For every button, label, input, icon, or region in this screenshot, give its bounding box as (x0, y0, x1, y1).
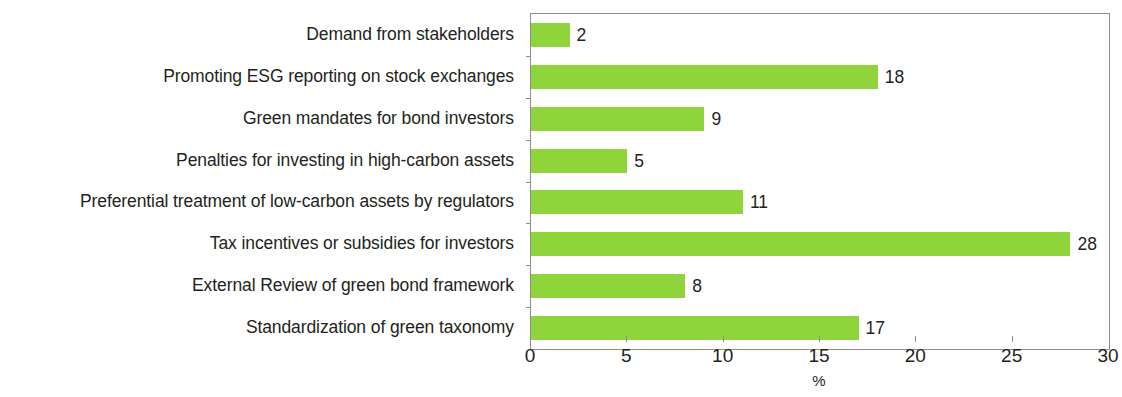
bar (531, 107, 704, 131)
bar-value-label: 5 (634, 149, 644, 173)
category-axis-tick (526, 223, 531, 224)
bar (531, 316, 859, 340)
category-label: Preferential treatment of low-carbon ass… (80, 189, 514, 213)
value-axis-label: 15 (808, 345, 829, 367)
bar-value-label: 18 (885, 65, 904, 89)
plot-inner: 218951128817 (531, 14, 1109, 349)
value-axis-tick (626, 336, 627, 342)
bar-value-label: 11 (750, 190, 768, 214)
bar-value-label: 2 (577, 23, 587, 47)
bar-value-label: 9 (711, 107, 721, 131)
category-label: Penalties for investing in high-carbon a… (176, 148, 514, 172)
value-axis-tick (1012, 336, 1013, 342)
category-label: External Review of green bond framework (192, 273, 514, 297)
value-axis-label: 5 (621, 345, 632, 367)
category-axis-tick (526, 307, 531, 308)
axis-title-percent: % (812, 372, 825, 389)
category-axis-tick (526, 182, 531, 183)
value-axis-tick (723, 336, 724, 342)
bar (531, 65, 878, 89)
category-label: Promoting ESG reporting on stock exchang… (163, 64, 514, 88)
category-label: Standardization of green taxonomy (246, 315, 514, 339)
value-axis-tick (819, 336, 820, 342)
value-axis-label: 25 (1001, 345, 1022, 367)
category-axis-tick (526, 140, 531, 141)
plot-area: 218951128817 (530, 13, 1110, 350)
bar (531, 149, 627, 173)
bar-chart-figure: Demand from stakeholdersPromoting ESG re… (0, 0, 1122, 397)
category-axis-tick (526, 265, 531, 266)
value-axis-label: 30 (1097, 345, 1118, 367)
bar (531, 190, 743, 214)
category-label: Tax incentives or subsidies for investor… (210, 231, 514, 255)
bar-value-label: 28 (1077, 232, 1096, 256)
value-axis-tick (915, 336, 916, 342)
value-axis-label: 10 (712, 345, 733, 367)
category-axis-labels: Demand from stakeholdersPromoting ESG re… (0, 13, 522, 348)
bar (531, 274, 685, 298)
bar-value-label: 8 (692, 274, 702, 298)
value-axis-label: 20 (905, 345, 926, 367)
bar (531, 232, 1070, 256)
category-axis-tick (526, 56, 531, 57)
bar-value-label: 17 (866, 316, 885, 340)
category-axis-tick (526, 98, 531, 99)
bar (531, 23, 570, 47)
category-label: Green mandates for bond investors (243, 106, 514, 130)
category-label: Demand from stakeholders (306, 22, 514, 46)
value-axis-label: 0 (525, 345, 536, 367)
